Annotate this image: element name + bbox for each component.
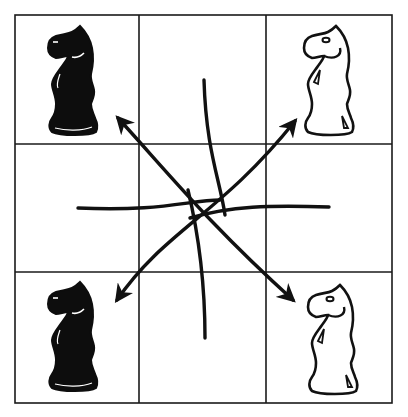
diagram-canvas: [0, 0, 408, 417]
knight-puzzle-diagram: [0, 0, 408, 417]
white-knight-top-right-icon: [304, 26, 353, 135]
black-knight-top-left-icon: [48, 26, 97, 135]
black-knight-bottom-left-icon: [48, 282, 97, 391]
vertical-curve-top: [204, 80, 225, 215]
white-knight-bottom-right-icon: [308, 285, 357, 394]
move-curves: [78, 80, 329, 338]
